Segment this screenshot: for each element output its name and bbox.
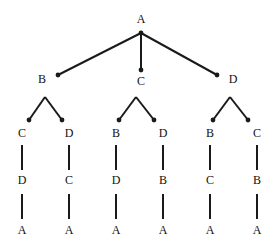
node-label-n1c2: D — [65, 127, 74, 139]
node-dot-n0 — [139, 31, 144, 36]
node-label-n2c2: D — [159, 127, 168, 139]
node-label-n1c1d: D — [18, 174, 27, 186]
node-dot-n3 — [215, 73, 220, 78]
tree-edge-n1-n1c2 — [45, 97, 62, 120]
tree-graphics — [0, 0, 278, 251]
node-label-n2c2a: A — [159, 224, 168, 236]
node-label-n2c1a: A — [112, 224, 121, 236]
tree-edge-n1-n1c1 — [29, 97, 45, 120]
node-dot-n2c1 — [117, 118, 122, 123]
node-label-n3c1d: C — [206, 174, 214, 186]
node-label-n1c1: C — [18, 127, 26, 139]
node-dot-n2 — [139, 68, 144, 73]
node-label-n3c2: C — [253, 127, 261, 139]
node-dot-n2c2 — [152, 118, 157, 123]
tree-diagram-canvas: ABCDCDBDBCDCDBCBAAAAAA — [0, 0, 278, 251]
node-dot-n1 — [56, 73, 61, 78]
edges-group — [22, 33, 257, 219]
node-dot-n1c1 — [27, 118, 32, 123]
node-dot-n3c2 — [246, 118, 251, 123]
tree-edge-n0-n3 — [141, 33, 217, 75]
node-label-n2c1: B — [112, 127, 120, 139]
tree-edge-n3-n3c2 — [230, 97, 248, 120]
node-label-n1c1a: A — [18, 224, 27, 236]
tree-edge-n3-n3c1 — [213, 97, 230, 120]
node-label-n0: A — [137, 13, 146, 25]
node-label-n1c2d: C — [65, 174, 73, 186]
node-label-n3c1a: A — [206, 224, 215, 236]
node-label-n3c2d: B — [253, 174, 261, 186]
node-label-n1: B — [38, 73, 46, 85]
node-label-n2: C — [137, 75, 145, 87]
node-label-n3c2a: A — [253, 224, 262, 236]
tree-edge-n0-n1 — [58, 33, 141, 75]
node-label-n3c1: B — [206, 127, 214, 139]
node-label-n2c1d: D — [112, 174, 121, 186]
tree-edge-n2-n2c2 — [136, 97, 154, 120]
node-label-n2c2d: B — [159, 174, 167, 186]
node-label-n3: D — [229, 73, 238, 85]
node-label-n1c2a: A — [65, 224, 74, 236]
node-dot-n3c1 — [211, 118, 216, 123]
tree-edge-n2-n2c1 — [119, 97, 136, 120]
node-dot-n1c2 — [60, 118, 65, 123]
